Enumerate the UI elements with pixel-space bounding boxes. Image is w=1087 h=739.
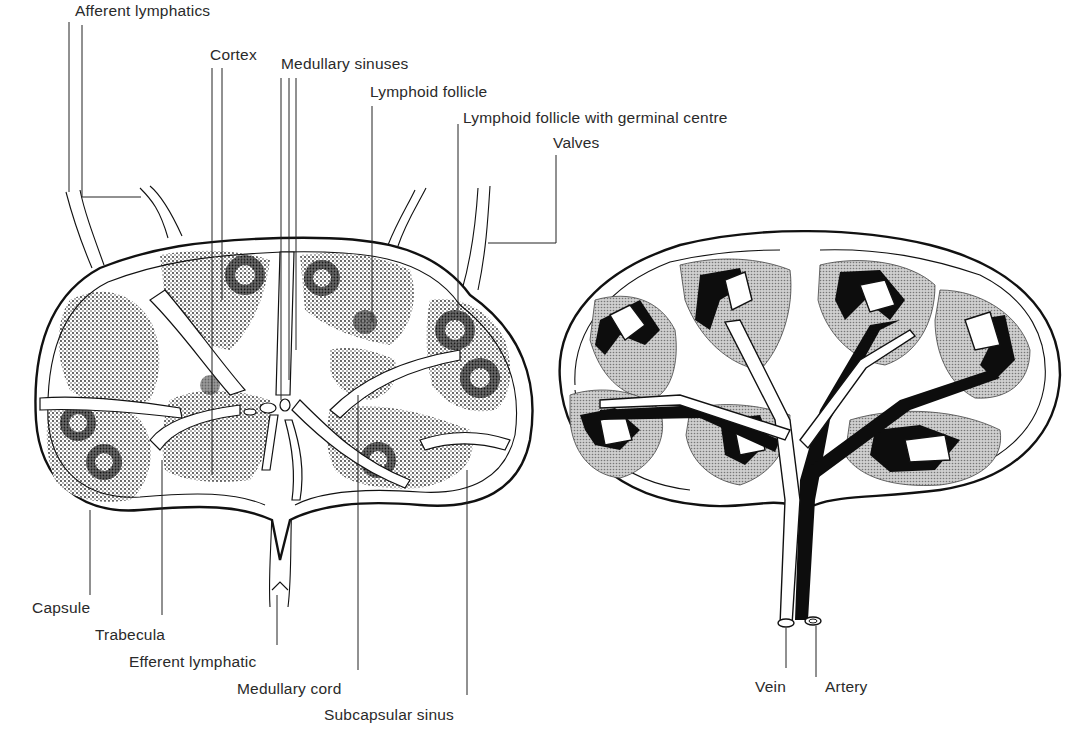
label-capsule: Capsule (32, 599, 90, 617)
label-cortex: Cortex (210, 46, 257, 64)
label-afferent-lymphatics: Afferent lymphatics (75, 2, 210, 20)
label-valves: Valves (553, 134, 600, 152)
label-efferent-lymphatic: Efferent lymphatic (129, 653, 256, 671)
label-trabecula: Trabecula (95, 626, 165, 644)
label-subcapsular-sinus: Subcapsular sinus (324, 706, 454, 724)
label-medullary-cord: Medullary cord (237, 680, 341, 698)
label-medullary-sinuses: Medullary sinuses (281, 55, 408, 73)
lymph-node-figure: Afferent lymphatics Cortex Medullary sin… (0, 0, 1087, 739)
label-lymphoid-follicle-germinal-centre: Lymphoid follicle with germinal centre (463, 109, 728, 127)
label-artery: Artery (825, 678, 868, 696)
vein-lumen (778, 619, 794, 627)
label-vein: Vein (755, 678, 786, 696)
label-lymphoid-follicle: Lymphoid follicle (370, 83, 487, 101)
artery-lumen (805, 617, 821, 625)
blood-supply-section (560, 231, 1060, 627)
leader-lines-right (786, 626, 816, 677)
